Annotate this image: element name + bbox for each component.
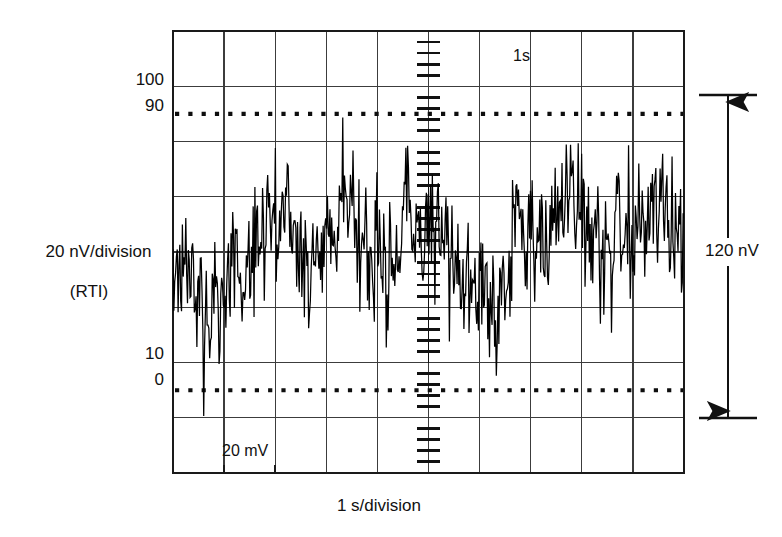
y-tick-label-0: 0 xyxy=(108,370,164,390)
y-axis-label: 20 nV/division (RTI) xyxy=(10,222,168,342)
timebase-marker-label: 1s xyxy=(513,47,530,66)
y-tick-label-10: 10 xyxy=(108,344,164,364)
y-axis-label-line1: 20 nV/division xyxy=(46,242,152,261)
amplitude-marker-label: 20 mV xyxy=(222,442,268,461)
x-axis-label: 1 s/division xyxy=(289,496,469,516)
span-label-120nv: 120 nV xyxy=(705,241,759,261)
y-tick-label-90: 90 xyxy=(108,96,164,116)
y-tick-label-100: 100 xyxy=(108,70,164,90)
y-axis-label-line2: (RTI) xyxy=(10,282,168,302)
oscilloscope-noise-figure: 20 nV/division (RTI) 100 90 10 0 1s 20 m… xyxy=(0,0,782,537)
